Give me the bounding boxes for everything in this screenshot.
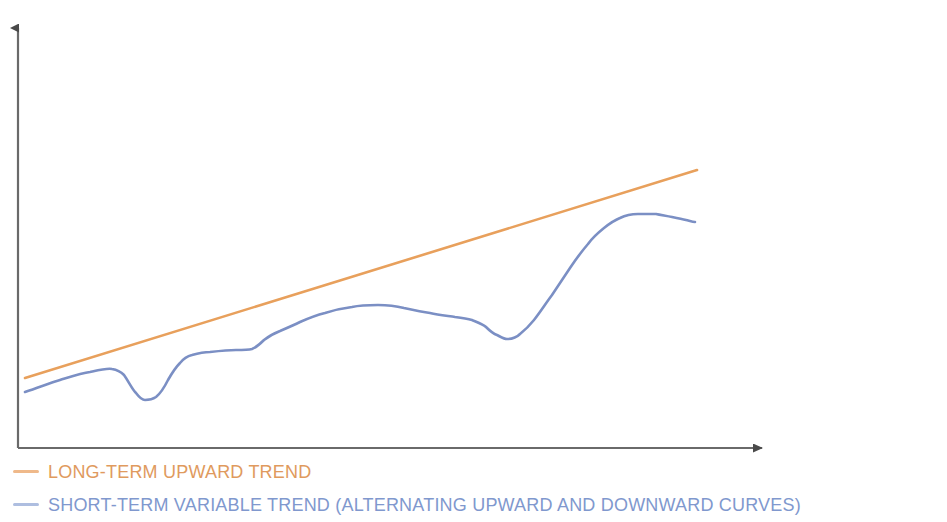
line-swatch-icon [13, 503, 39, 506]
chart-legend: LONG-TERM UPWARD TREND SHORT-TERM VARIAB… [0, 455, 947, 522]
legend-label-short-term-variable-trend: SHORT-TERM VARIABLE TREND (ALTERNATING U… [48, 496, 801, 514]
plot-area [0, 0, 947, 460]
series-short-term-variable-trend-curve [25, 214, 695, 400]
line-swatch-icon [13, 470, 39, 473]
series-long-term-upward-trend-line [25, 170, 697, 378]
legend-item-long-term-upward-trend: LONG-TERM UPWARD TREND [0, 455, 947, 488]
legend-label-long-term-upward-trend: LONG-TERM UPWARD TREND [48, 463, 311, 481]
legend-item-short-term-variable-trend: SHORT-TERM VARIABLE TREND (ALTERNATING U… [0, 488, 947, 521]
trend-chart: LONG-TERM UPWARD TREND SHORT-TERM VARIAB… [0, 0, 947, 522]
